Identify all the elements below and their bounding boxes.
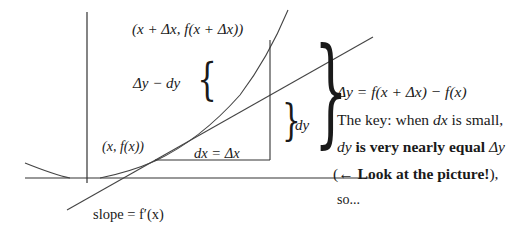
explanation-line-3: (← Look at the picture!), (333, 166, 498, 182)
explanation-line-4: so... (337, 193, 360, 207)
explanation-line-2: dy is very nearly equal Δy (337, 139, 505, 155)
label-lower-point: (x, f(x)) (102, 140, 144, 154)
explanation-line-3-open: (← (333, 165, 358, 182)
explanation-line-3-close: ), (489, 165, 498, 182)
label-dx-eq-delta-x: dx = Δx (194, 146, 240, 161)
label-delta-y-minus-dy: Δy − dy (133, 76, 180, 91)
brace-delta-y-minus-dy-icon: { (197, 58, 217, 102)
explanation-line-3-bold: Look at the picture! (358, 165, 490, 182)
explanation-line-2-end: Δy (489, 138, 505, 155)
label-delta-y-definition: Δy = f(x + Δx) − f(x) (337, 84, 467, 100)
explanation-line-2-bold: is very nearly equal (352, 138, 489, 155)
explanation-line-2-var: dy (337, 138, 352, 155)
explanation-line-1: The key: when dx is small, (337, 112, 503, 128)
label-upper-point: (x + Δx, f(x + Δx)) (132, 22, 243, 37)
explanation-line-1-var: dx (433, 111, 448, 128)
explanation-line-1-post: is small, (448, 111, 504, 128)
label-slope: slope = f′(x) (93, 207, 164, 222)
explanation-line-1-pre: The key: when (337, 111, 433, 128)
label-dy: dy (295, 118, 309, 133)
